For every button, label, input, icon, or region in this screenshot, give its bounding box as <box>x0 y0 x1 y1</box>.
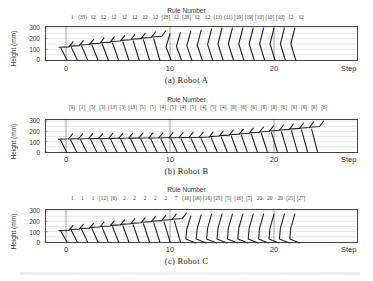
x-tick: 20 <box>270 245 278 254</box>
x-tick: 10 <box>166 245 174 254</box>
figure-caption-cutoff <box>20 272 360 275</box>
x-tick: 0 <box>64 245 68 254</box>
x-axis-label: Step <box>341 245 356 254</box>
robot-posture-plot <box>0 0 373 281</box>
caption-robot-c: (c) Robot C <box>0 256 373 266</box>
panel-robot-c: Rule Number 111[12](6)222227[16][16][16]… <box>0 0 373 281</box>
